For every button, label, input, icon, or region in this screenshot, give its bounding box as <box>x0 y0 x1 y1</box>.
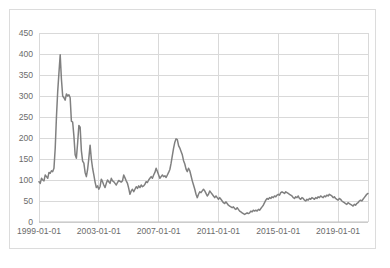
x-tick-label: 1999-01-01 <box>17 226 61 236</box>
y-tick-label: 350 <box>19 70 34 80</box>
y-tick-label: 300 <box>19 91 34 101</box>
y-tick-label: 50 <box>23 196 33 206</box>
y-tick-label: 250 <box>19 112 34 122</box>
line-chart: 050100150200250300350400450 1999-01-0120… <box>0 0 390 268</box>
y-tick-label: 150 <box>19 154 34 164</box>
y-tick-label: 200 <box>19 133 34 143</box>
x-tick-label: 2015-01-01 <box>256 226 300 236</box>
x-tick-label: 2011-01-01 <box>197 226 241 236</box>
x-tick-label: 2007-01-01 <box>137 226 181 236</box>
y-tick-label: 100 <box>19 175 34 185</box>
x-axis-tick-labels: 1999-01-012003-01-012007-01-012011-01-01… <box>17 226 360 236</box>
y-axis-tick-labels: 050100150200250300350400450 <box>19 28 34 227</box>
x-tick-label: 2019-01-01 <box>316 226 360 236</box>
y-tick-label: 450 <box>19 28 34 38</box>
chart-figure: 050100150200250300350400450 1999-01-0120… <box>0 0 390 268</box>
y-tick-label: 400 <box>19 49 34 59</box>
x-tick-label: 2003-01-01 <box>77 226 121 236</box>
plot-background <box>39 33 368 222</box>
